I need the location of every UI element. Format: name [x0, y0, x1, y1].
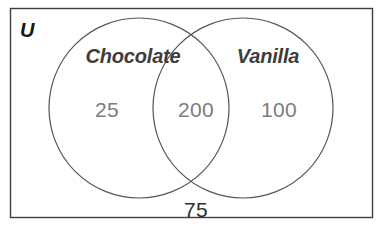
set-label-chocolate: Chocolate [86, 46, 181, 66]
universe-label: U [20, 20, 34, 40]
set-label-vanilla: Vanilla [237, 46, 299, 66]
count-outside-both: 75 [184, 199, 208, 220]
venn-diagram-canvas: U Chocolate Vanilla 25 200 100 75 [0, 0, 384, 232]
count-chocolate-only: 25 [95, 99, 119, 120]
count-intersection: 200 [178, 99, 214, 120]
count-vanilla-only: 100 [261, 99, 297, 120]
